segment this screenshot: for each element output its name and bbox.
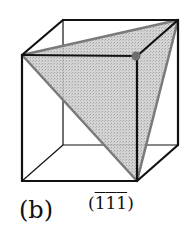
miller-index-label: (111) bbox=[88, 193, 134, 213]
corner-dot-marker bbox=[132, 52, 141, 61]
miller-index-l: 1 bbox=[116, 193, 127, 213]
panel-label: (b) bbox=[19, 196, 53, 224]
plane-label-open: ( bbox=[88, 193, 95, 213]
miller-index-h: 1 bbox=[95, 193, 106, 213]
plane-label-close: ) bbox=[127, 193, 134, 213]
miller-index-k: 1 bbox=[105, 193, 116, 213]
crystal-plane-triangle bbox=[22, 20, 178, 181]
